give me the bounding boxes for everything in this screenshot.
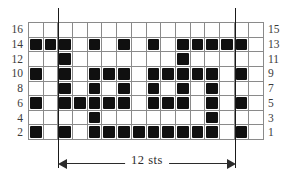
- chart-grid: [28, 22, 264, 140]
- chart-cell: [147, 38, 162, 53]
- chart-cell: [29, 111, 44, 126]
- chart-cell: [73, 125, 88, 140]
- chart-cell: [58, 38, 73, 53]
- repeat-marker-line-left: [58, 8, 60, 168]
- chart-cell: [44, 38, 59, 53]
- chart-cell: [205, 96, 220, 111]
- chart-cell: [44, 67, 59, 82]
- chart-cell: [58, 111, 73, 126]
- chart-cell: [73, 67, 88, 82]
- chart-cell: [44, 96, 59, 111]
- row-label-right-15: 15: [264, 22, 288, 37]
- chart-cell: [205, 52, 220, 67]
- chart-cell: [44, 111, 59, 126]
- chart-cell: [73, 38, 88, 53]
- chart-cell: [205, 38, 220, 53]
- chart-cell: [73, 52, 88, 67]
- chart-cell: [117, 96, 132, 111]
- chart-cell: [191, 23, 206, 38]
- chart-cell: [44, 125, 59, 140]
- chart-cell: [88, 111, 103, 126]
- chart-cell: [58, 96, 73, 111]
- arrow-right-icon: [227, 159, 236, 169]
- chart-cell: [102, 52, 117, 67]
- chart-cell: [132, 38, 147, 53]
- chart-cell: [58, 52, 73, 67]
- chart-cell: [235, 96, 250, 111]
- chart-cell: [58, 23, 73, 38]
- chart-cell: [147, 96, 162, 111]
- knitting-chart: 161412108642 15131197531 12 sts: [0, 0, 290, 188]
- chart-cell: [176, 111, 191, 126]
- chart-cell: [161, 52, 176, 67]
- chart-cell: [29, 67, 44, 82]
- chart-cell: [44, 52, 59, 67]
- chart-cell: [176, 67, 191, 82]
- chart-cell: [147, 52, 162, 67]
- chart-cell: [220, 38, 235, 53]
- chart-cell: [117, 23, 132, 38]
- chart-cell: [88, 38, 103, 53]
- chart-cell: [176, 82, 191, 97]
- row-label-left-6: 6: [2, 96, 26, 111]
- chart-cell: [117, 82, 132, 97]
- chart-cell: [102, 67, 117, 82]
- row-label-left-12: 12: [2, 52, 26, 67]
- chart-cell: [161, 111, 176, 126]
- row-label-right-11: 11: [264, 52, 288, 67]
- chart-cell: [176, 52, 191, 67]
- chart-cell: [132, 96, 147, 111]
- chart-cell: [29, 38, 44, 53]
- chart-cell: [132, 52, 147, 67]
- chart-cell: [29, 96, 44, 111]
- row-label-left-2: 2: [2, 125, 26, 140]
- chart-cell: [102, 125, 117, 140]
- repeat-marker-line-right: [235, 8, 237, 168]
- chart-cell: [29, 23, 44, 38]
- chart-cell: [117, 67, 132, 82]
- chart-cell: [58, 125, 73, 140]
- chart-cell: [147, 67, 162, 82]
- chart-cell: [147, 82, 162, 97]
- chart-cell: [132, 67, 147, 82]
- row-label-left-8: 8: [2, 81, 26, 96]
- chart-cell: [249, 111, 264, 126]
- chart-cell: [161, 38, 176, 53]
- chart-cell: [161, 125, 176, 140]
- chart-cell: [102, 82, 117, 97]
- chart-cell: [44, 23, 59, 38]
- stitch-count-annotation: 12 sts: [28, 146, 264, 174]
- chart-cell: [249, 125, 264, 140]
- row-label-left-16: 16: [2, 22, 26, 37]
- chart-cell: [132, 125, 147, 140]
- chart-cell: [191, 125, 206, 140]
- chart-cell: [176, 96, 191, 111]
- chart-cell: [132, 23, 147, 38]
- chart-cell: [88, 82, 103, 97]
- chart-cell: [205, 82, 220, 97]
- chart-cell: [220, 52, 235, 67]
- chart-cell: [147, 111, 162, 126]
- chart-cell: [191, 38, 206, 53]
- chart-cell: [176, 125, 191, 140]
- row-label-right-5: 5: [264, 96, 288, 111]
- chart-cell: [235, 82, 250, 97]
- chart-cell: [73, 82, 88, 97]
- chart-cell: [249, 23, 264, 38]
- chart-cell: [205, 125, 220, 140]
- row-label-left-10: 10: [2, 66, 26, 81]
- chart-cell: [132, 82, 147, 97]
- chart-cell: [73, 23, 88, 38]
- chart-cell: [117, 111, 132, 126]
- chart-cell: [73, 111, 88, 126]
- chart-cell: [235, 111, 250, 126]
- row-label-right-7: 7: [264, 81, 288, 96]
- chart-cell: [147, 23, 162, 38]
- chart-grid-wrapper: [28, 22, 264, 140]
- row-label-right-13: 13: [264, 37, 288, 52]
- chart-cell: [29, 82, 44, 97]
- chart-cell: [220, 111, 235, 126]
- chart-cell: [147, 125, 162, 140]
- chart-cell: [249, 67, 264, 82]
- chart-cell: [161, 23, 176, 38]
